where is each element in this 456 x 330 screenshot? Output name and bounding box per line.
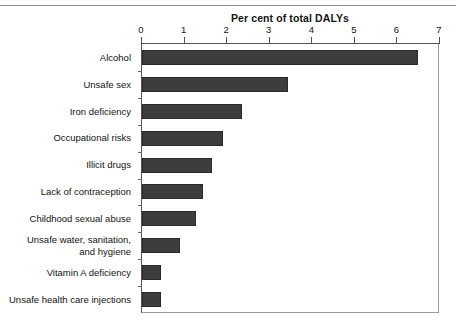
category-tick	[138, 179, 142, 180]
x-tick-label: 7	[436, 24, 441, 35]
x-tick	[439, 37, 440, 44]
x-tick	[141, 37, 142, 44]
bar	[142, 131, 223, 146]
category-label: Unsafe water, sanitation, and hygiene	[27, 234, 131, 257]
category-tick	[138, 259, 142, 260]
x-tick-label: 1	[181, 24, 186, 35]
category-label: Vitamin A deficiency	[47, 267, 131, 279]
category-label: Occupational risks	[53, 132, 131, 144]
bar	[142, 50, 418, 65]
category-label: Unsafe sex	[83, 79, 131, 91]
category-label: Lack of contraception	[41, 186, 131, 198]
bar	[142, 158, 212, 173]
x-tick	[311, 37, 312, 44]
bar	[142, 77, 288, 92]
x-tick	[396, 37, 397, 44]
chart-title: Per cent of total DALYs	[141, 12, 439, 24]
bar	[142, 292, 161, 307]
x-tick	[184, 37, 185, 44]
category-tick	[138, 125, 142, 126]
header-divider	[0, 5, 456, 6]
category-label: Iron deficiency	[70, 106, 131, 118]
category-label: Unsafe health care injections	[9, 294, 131, 306]
bar	[142, 104, 242, 119]
category-tick	[138, 98, 142, 99]
x-tick	[354, 37, 355, 44]
x-tick-label: 3	[266, 24, 271, 35]
x-tick-label: 5	[351, 24, 356, 35]
bar	[142, 211, 196, 226]
x-tick	[269, 37, 270, 44]
category-label: Illicit drugs	[86, 159, 131, 171]
chart-figure: Per cent of total DALYs 01234567 Alcohol…	[0, 0, 456, 330]
category-tick	[138, 232, 142, 233]
x-tick-label: 2	[223, 24, 228, 35]
bar-rows: AlcoholUnsafe sexIron deficiencyOccupati…	[0, 44, 456, 313]
category-tick	[138, 286, 142, 287]
bar	[142, 238, 180, 253]
category-label: Alcohol	[100, 52, 131, 64]
category-tick	[138, 71, 142, 72]
x-tick-label: 0	[138, 24, 143, 35]
x-tick	[226, 37, 227, 44]
category-tick	[138, 152, 142, 153]
bar	[142, 184, 203, 199]
bar	[142, 265, 161, 280]
category-tick	[138, 205, 142, 206]
category-label: Childhood sexual abuse	[30, 213, 131, 225]
x-tick-label: 4	[309, 24, 314, 35]
x-tick-label: 6	[394, 24, 399, 35]
